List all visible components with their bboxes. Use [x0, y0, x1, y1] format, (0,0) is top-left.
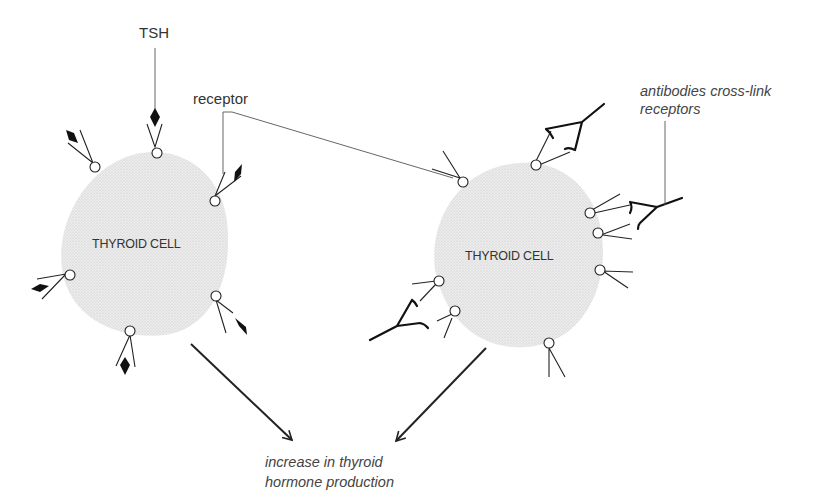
receptor-leader-line: [223, 112, 453, 178]
right-arrow: [396, 348, 486, 441]
antibodies-label-line2: receptors: [640, 101, 700, 117]
tsh-diamond-icon: [234, 164, 242, 182]
antibody-crosslink-top: [531, 104, 604, 170]
outcome-label-line2: hormone production: [265, 474, 394, 490]
left-receptor-bottom: [116, 326, 135, 375]
right-cell-label: THYROID CELL: [465, 249, 554, 263]
left-arrow: [191, 344, 292, 440]
antibody-crosslink-right: [585, 194, 682, 239]
tsh-diamond-icon: [66, 130, 78, 143]
left-receptor-right: [210, 164, 242, 206]
tsh-diamond-icon: [31, 284, 49, 292]
antibody-icon: [630, 198, 682, 229]
tsh-diamond-icon: [150, 108, 160, 127]
left-receptor-topleft: [66, 130, 100, 172]
antibody-icon: [370, 300, 428, 340]
left-thyroid-cell: THYROID CELL: [61, 152, 228, 336]
tsh-diamond-icon: [235, 318, 247, 335]
left-receptor-top: [147, 108, 162, 158]
thyroid-diagram: THYROID CELL TSH receptor THYROID: [0, 0, 833, 502]
left-receptor-bottomright: [211, 291, 247, 335]
right-receptor-topleft: [432, 151, 468, 187]
receptor-label: receptor: [193, 90, 248, 107]
antibody-icon: [546, 104, 604, 150]
antibodies-label-line1: antibodies cross-link: [640, 83, 772, 99]
tsh-label: TSH: [139, 24, 169, 41]
right-receptor-bottom: [544, 338, 565, 377]
tsh-diamond-icon: [120, 357, 130, 375]
right-thyroid-cell: THYROID CELL: [434, 163, 603, 347]
right-receptor-right: [595, 265, 633, 288]
left-cell-label: THYROID CELL: [92, 237, 181, 251]
outcome-label-line1: increase in thyroid: [265, 454, 384, 470]
